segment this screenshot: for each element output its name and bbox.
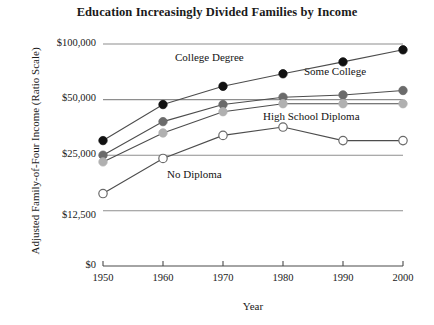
data-point <box>339 136 347 144</box>
data-point <box>99 189 107 197</box>
data-point <box>399 136 407 144</box>
data-point <box>219 82 227 90</box>
data-point <box>279 123 287 131</box>
axes <box>103 261 403 266</box>
data-point <box>339 58 347 66</box>
data-point <box>159 117 167 125</box>
series-line <box>103 50 403 141</box>
plot-area <box>0 0 434 325</box>
series-line <box>103 127 403 193</box>
data-point <box>99 158 107 166</box>
data-point <box>339 91 347 99</box>
series-high-school-diploma <box>99 100 407 167</box>
chart-figure: Education Increasingly Divided Families … <box>0 0 434 325</box>
data-point <box>279 100 287 108</box>
data-point <box>399 86 407 94</box>
data-point <box>399 100 407 108</box>
data-point <box>399 46 407 54</box>
series-line <box>103 104 403 162</box>
data-point <box>159 129 167 137</box>
gridlines <box>103 44 403 211</box>
data-point <box>219 131 227 139</box>
series-line <box>103 91 403 156</box>
series-layer <box>99 46 407 198</box>
series-some-college <box>99 86 407 159</box>
data-point <box>159 154 167 162</box>
series-no-diploma <box>99 123 407 198</box>
data-point <box>339 100 347 108</box>
series-college-degree <box>99 46 407 145</box>
data-point <box>279 70 287 78</box>
data-point <box>159 100 167 108</box>
data-point <box>99 136 107 144</box>
data-point <box>219 107 227 115</box>
